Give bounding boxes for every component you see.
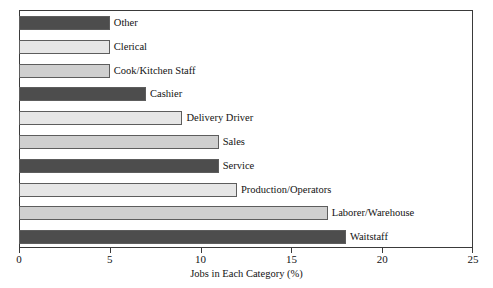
bar-row: Waitstaff	[19, 230, 473, 244]
tick-label: 0	[16, 252, 22, 266]
bar	[19, 206, 328, 220]
bar-label: Waitstaff	[350, 229, 388, 244]
tick-label: 15	[286, 252, 297, 266]
bar-row: Delivery Driver	[19, 111, 473, 125]
x-axis-tick-labels: 0510152025	[19, 252, 473, 268]
bar-row: Other	[19, 16, 473, 30]
bars-layer: OtherClericalCook/Kitchen StaffCashierDe…	[19, 10, 473, 248]
tick-label: 5	[107, 252, 113, 266]
bar	[19, 16, 110, 30]
bar-label: Cashier	[150, 86, 182, 101]
bar-label: Clerical	[114, 39, 147, 54]
bar-label: Sales	[223, 134, 245, 149]
bar-label: Laborer/Warehouse	[332, 205, 415, 220]
tick-label: 20	[377, 252, 388, 266]
bar-label: Service	[223, 158, 255, 173]
x-axis-title: Jobs in Each Category (%)	[0, 267, 493, 281]
bar-row: Production/Operators	[19, 183, 473, 197]
tick-label: 10	[195, 252, 206, 266]
bar-label: Delivery Driver	[186, 110, 253, 125]
bar	[19, 230, 346, 244]
bar	[19, 183, 237, 197]
bar	[19, 135, 219, 149]
bar-row: Clerical	[19, 40, 473, 54]
bar-label: Other	[114, 15, 138, 30]
bar	[19, 64, 110, 78]
bar-row: Laborer/Warehouse	[19, 206, 473, 220]
bar-label: Cook/Kitchen Staff	[114, 63, 196, 78]
bar-row: Cook/Kitchen Staff	[19, 64, 473, 78]
bar-row: Cashier	[19, 87, 473, 101]
bar	[19, 40, 110, 54]
bar-row: Service	[19, 159, 473, 173]
tick-label: 25	[468, 252, 479, 266]
bar	[19, 87, 146, 101]
bar	[19, 111, 182, 125]
bar-row: Sales	[19, 135, 473, 149]
bar-chart: OtherClericalCook/Kitchen StaffCashierDe…	[0, 0, 493, 288]
bar-label: Production/Operators	[241, 182, 331, 197]
bar	[19, 159, 219, 173]
